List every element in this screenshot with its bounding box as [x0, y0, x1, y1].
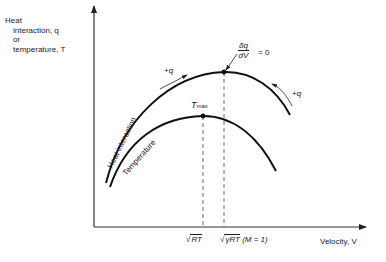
y-label-line3: or — [5, 35, 65, 45]
sqrt-gamma-rt-radicand: γRT — [224, 234, 240, 244]
y-label-line4: temperature, T — [5, 45, 65, 55]
tick-label-sqrt-gamma-rt: √γRT (M = 1) — [220, 235, 268, 245]
deriv-numerator: δq — [238, 41, 249, 51]
tick-label-sqrt-rt: √RT — [186, 235, 202, 245]
t-max-label: Tmax — [191, 101, 208, 112]
deriv-pointer-arrow — [226, 54, 237, 70]
y-label-line1: Heat — [5, 16, 65, 26]
y-label-line2: interaction, q — [5, 26, 65, 36]
y-axis-label: Heat interaction, q or temperature, T — [5, 16, 65, 54]
plus-q-left-label: +q — [164, 66, 173, 76]
deriv-fraction: δq dV — [238, 41, 249, 60]
mach-one-label: (M = 1) — [242, 235, 268, 244]
t-max-point — [201, 114, 206, 119]
deriv-equals: = 0 — [258, 48, 269, 58]
heat-max-point — [222, 70, 227, 75]
plus-q-right-label: +q — [292, 89, 301, 99]
deriv-denominator: dV — [238, 51, 249, 60]
temperature-curve — [110, 116, 276, 187]
sqrt-rt-radicand: RT — [190, 234, 202, 244]
x-axis-label: Velocity, V — [320, 237, 357, 247]
t-max-sub: max — [197, 103, 208, 109]
